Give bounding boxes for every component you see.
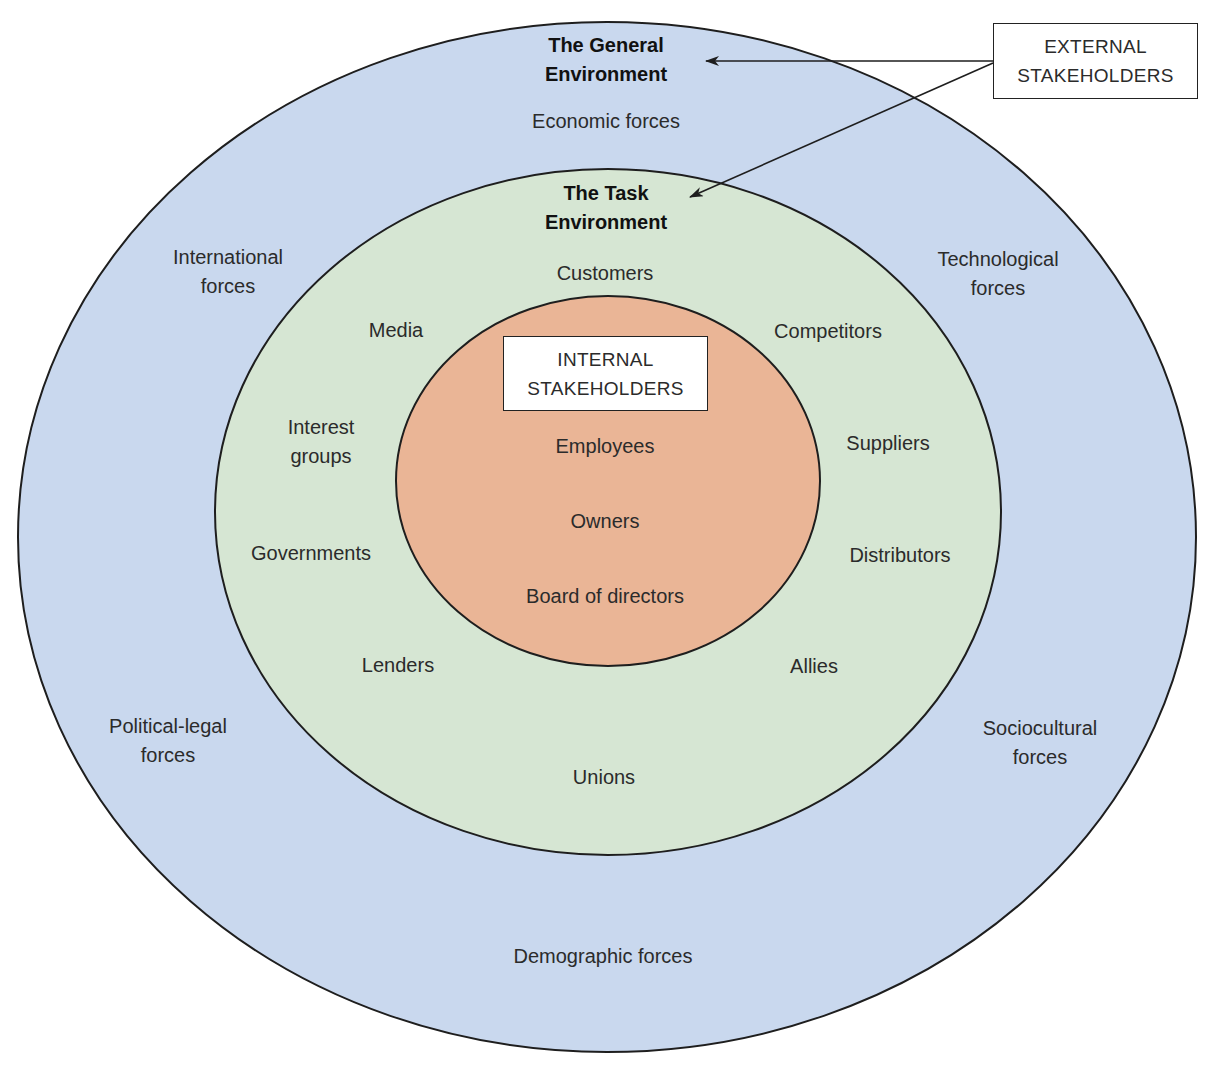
unions-label: Unions	[573, 763, 635, 792]
external-stakeholders-box: EXTERNAL STAKEHOLDERS	[993, 23, 1198, 99]
competitors-label: Competitors	[774, 317, 882, 346]
technological-forces-label: Technological forces	[937, 245, 1058, 303]
economic-forces-label: Economic forces	[532, 107, 680, 136]
general-environment-title: The General Environment	[545, 31, 667, 89]
media-label: Media	[369, 316, 423, 345]
external-box-line1: EXTERNAL	[1044, 32, 1147, 61]
customers-label: Customers	[557, 259, 654, 288]
suppliers-label: Suppliers	[846, 429, 929, 458]
governments-label: Governments	[251, 539, 371, 568]
general-environment-title-line1: The General	[545, 31, 667, 60]
allies-label: Allies	[790, 652, 838, 681]
lenders-label: Lenders	[362, 651, 434, 680]
sociocultural-forces-label: Sociocultural forces	[983, 714, 1098, 772]
employees-label: Employees	[556, 432, 655, 461]
internal-box-line2: STAKEHOLDERS	[527, 374, 683, 403]
board-of-directors-label: Board of directors	[526, 582, 684, 611]
internal-box-line1: INTERNAL	[557, 345, 653, 374]
task-environment-title-line1: The Task	[545, 179, 667, 208]
task-environment-title-line2: Environment	[545, 208, 667, 237]
interest-groups-label: Interest groups	[288, 413, 355, 471]
political-legal-forces-label: Political-legal forces	[109, 712, 227, 770]
internal-stakeholders-box: INTERNAL STAKEHOLDERS	[503, 336, 708, 411]
international-forces-label: International forces	[173, 243, 283, 301]
distributors-label: Distributors	[849, 541, 950, 570]
task-environment-title: The Task Environment	[545, 179, 667, 237]
demographic-forces-label: Demographic forces	[514, 942, 693, 971]
external-box-line2: STAKEHOLDERS	[1017, 61, 1173, 90]
general-environment-title-line2: Environment	[545, 60, 667, 89]
owners-label: Owners	[571, 507, 640, 536]
